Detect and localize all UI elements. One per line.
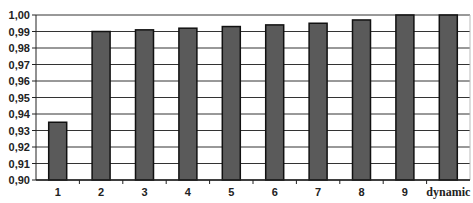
bar-8	[353, 20, 371, 180]
x-tick-label: 9	[402, 186, 408, 198]
bar-2	[92, 32, 110, 181]
y-tick-label: 0,97	[9, 59, 30, 71]
x-tick-label: 4	[185, 186, 192, 198]
x-tick-label: 1	[55, 186, 61, 198]
x-tick-label: dynamic	[426, 185, 471, 199]
x-tick-label: 5	[228, 186, 234, 198]
bar-6	[266, 25, 284, 180]
y-tick-label: 0,98	[9, 42, 30, 54]
y-tick-label: 0,95	[9, 92, 30, 104]
bar-9	[396, 15, 414, 180]
x-axis: 123456789dynamic	[36, 180, 471, 199]
bar-chart: 0,900,910,920,930,940,950,960,970,980,99…	[0, 0, 473, 203]
y-tick-label: 0,99	[9, 26, 30, 38]
x-tick-label: 8	[358, 186, 364, 198]
y-axis: 0,900,910,920,930,940,950,960,970,980,99…	[9, 9, 36, 186]
y-tick-label: 0,90	[9, 174, 30, 186]
y-tick-label: 0,91	[9, 158, 30, 170]
x-tick-label: 7	[315, 186, 321, 198]
y-tick-label: 0,96	[9, 75, 30, 87]
x-tick-label: 6	[272, 186, 278, 198]
y-tick-label: 1,00	[9, 9, 30, 21]
bar-dynamic	[439, 15, 457, 180]
x-tick-label: 2	[98, 186, 104, 198]
bar-3	[136, 30, 154, 180]
bar-4	[179, 28, 197, 180]
bar-1	[49, 122, 67, 180]
y-tick-label: 0,94	[9, 108, 31, 120]
y-tick-label: 0,93	[9, 125, 30, 137]
x-tick-label: 3	[141, 186, 147, 198]
bar-5	[222, 27, 240, 180]
bar-7	[309, 23, 327, 180]
y-tick-label: 0,92	[9, 141, 30, 153]
